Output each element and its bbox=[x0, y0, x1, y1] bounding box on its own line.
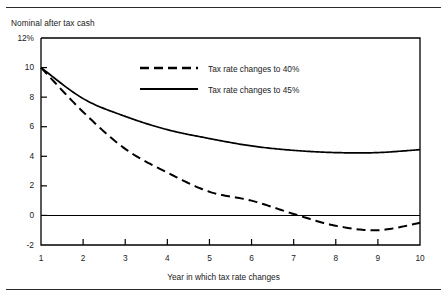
y-tick-label: 6 bbox=[0, 121, 34, 131]
y-tick-label: 8 bbox=[0, 92, 34, 102]
x-tick-label: 3 bbox=[113, 253, 137, 263]
y-tick-label: 12% bbox=[0, 33, 34, 43]
x-tick-label: 8 bbox=[324, 253, 348, 263]
legend-label-tax-45: Tax rate changes to 45% bbox=[208, 85, 299, 95]
x-axis-ticks bbox=[83, 239, 378, 245]
x-tick-label: 6 bbox=[240, 253, 264, 263]
x-tick-label: 10 bbox=[408, 253, 432, 263]
x-tick-label: 1 bbox=[29, 253, 53, 263]
x-tick-label: 5 bbox=[197, 253, 221, 263]
y-axis-ticks bbox=[41, 68, 47, 216]
y-tick-label: 0 bbox=[0, 210, 34, 220]
x-tick-label: 7 bbox=[282, 253, 306, 263]
x-tick-label: 2 bbox=[71, 253, 95, 263]
series-line-tax-45 bbox=[41, 68, 420, 153]
y-tick-label: 2 bbox=[0, 180, 34, 190]
figure-container: Nominal after tax cash Year in which tax… bbox=[0, 0, 447, 301]
legend-label-tax-40: Tax rate changes to 40% bbox=[208, 64, 299, 74]
y-tick-label: 10 bbox=[0, 62, 34, 72]
x-tick-label: 9 bbox=[366, 253, 390, 263]
y-tick-label: -2 bbox=[0, 240, 34, 250]
x-tick-label: 4 bbox=[155, 253, 179, 263]
y-tick-label: 4 bbox=[0, 151, 34, 161]
